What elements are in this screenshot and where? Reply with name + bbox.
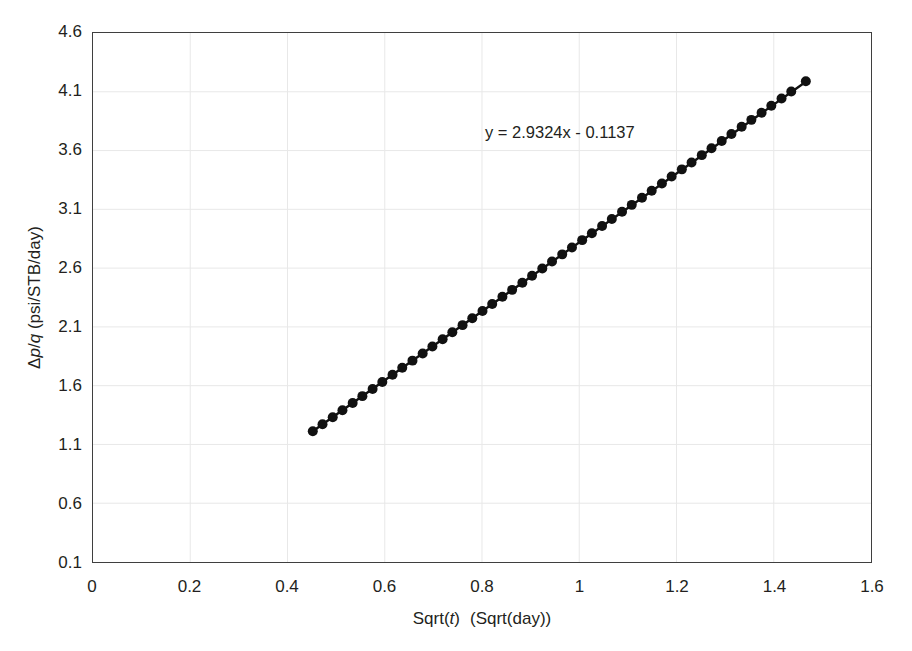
chart-figure: 0.10.61.11.62.12.63.13.64.14.6 Δp/q (psi… [0, 0, 912, 651]
x-axis-tick-label: 0 [87, 578, 96, 595]
data-point-marker [507, 285, 517, 295]
data-point-marker [537, 263, 547, 273]
data-point-marker [467, 313, 477, 323]
data-point-marker [627, 200, 637, 210]
data-point-marker [777, 93, 787, 103]
y-axis-tick-label: 2.1 [58, 318, 82, 335]
x-axis-tick-label: 0.2 [178, 578, 202, 595]
data-point-marker [337, 405, 347, 415]
y-axis-tick-label: 0.1 [58, 554, 82, 571]
data-point-marker [607, 214, 617, 224]
data-point-marker [397, 363, 407, 373]
data-point-marker [757, 108, 767, 118]
x-axis-tick-label: 0.6 [373, 578, 397, 595]
y-axis-tick-label: 3.1 [58, 200, 82, 217]
x-axis-tick-labels: 00.20.40.60.811.21.41.6 [0, 578, 912, 602]
data-point-marker [368, 384, 378, 394]
data-point-marker [587, 228, 597, 238]
x-axis-tick-label: 0.4 [275, 578, 299, 595]
data-point-marker [697, 150, 707, 160]
data-point-marker [637, 193, 647, 203]
y-axis-tick-label: 4.1 [58, 82, 82, 99]
y-axis-title-delta: Δ [25, 358, 44, 369]
data-point-marker [746, 115, 756, 125]
data-point-marker [547, 257, 557, 267]
y-axis-title: Δp/q (psi/STB/day) [22, 32, 48, 563]
data-point-marker [667, 172, 677, 182]
data-point-marker [617, 207, 627, 217]
y-axis-title-q: q [25, 334, 44, 343]
y-axis-tick-label: 1.6 [58, 377, 82, 394]
data-point-marker [737, 122, 747, 132]
data-point-marker [418, 348, 428, 358]
data-point-marker [677, 164, 687, 174]
data-point-marker [766, 101, 776, 111]
x-axis-tick-label: 1 [575, 578, 584, 595]
y-axis-tick-label: 3.6 [58, 141, 82, 158]
data-point-marker [557, 249, 567, 259]
data-point-marker [357, 391, 367, 401]
x-axis-tick-label: 1.6 [860, 578, 884, 595]
data-point-marker [647, 186, 657, 196]
x-axis-tick-label: 1.4 [763, 578, 787, 595]
x-axis-title-units: (Sqrt(day)) [470, 609, 551, 628]
data-point-marker [388, 370, 398, 380]
x-axis-title: Sqrt(t)(Sqrt(day)) [92, 608, 872, 630]
data-point-marker [407, 356, 417, 366]
data-point-marker [527, 271, 537, 281]
data-point-marker [726, 129, 736, 139]
data-series [93, 33, 871, 562]
data-point-marker [447, 327, 457, 337]
data-point-marker [786, 87, 796, 97]
data-point-marker [657, 178, 667, 188]
y-axis-tick-label: 0.6 [58, 495, 82, 512]
data-point-marker [308, 426, 318, 436]
data-point-marker [517, 278, 527, 288]
data-point-marker [497, 292, 507, 302]
x-axis-title-pre: Sqrt( [413, 609, 450, 628]
data-point-marker [477, 306, 487, 316]
y-axis-tick-label: 2.6 [58, 259, 82, 276]
y-axis-title-p: p [25, 348, 44, 357]
data-point-marker [458, 320, 468, 330]
y-axis-tick-label: 4.6 [58, 23, 82, 40]
x-axis-title-post: ) [454, 609, 460, 628]
y-axis-tick-label: 1.1 [58, 436, 82, 453]
data-point-marker [438, 334, 448, 344]
data-point-marker [597, 221, 607, 231]
data-point-marker [577, 235, 587, 245]
y-axis-title-slash: / [25, 343, 44, 348]
data-point-marker [567, 242, 577, 252]
data-point-marker [687, 157, 697, 167]
y-axis-title-units: (psi/STB/day) [25, 226, 44, 334]
x-axis-tick-label: 0.8 [470, 578, 494, 595]
data-point-marker [328, 412, 338, 422]
data-point-marker [318, 419, 328, 429]
data-point-marker [377, 377, 387, 387]
data-point-marker [717, 136, 727, 146]
data-point-marker [707, 143, 717, 153]
data-point-marker [348, 398, 358, 408]
data-point-marker [427, 342, 437, 352]
trendline-equation-label: y = 2.9324x - 0.1137 [485, 122, 635, 142]
x-axis-tick-label: 1.2 [665, 578, 689, 595]
plot-area [92, 32, 872, 563]
data-point-marker [801, 76, 811, 86]
data-point-marker [487, 299, 497, 309]
